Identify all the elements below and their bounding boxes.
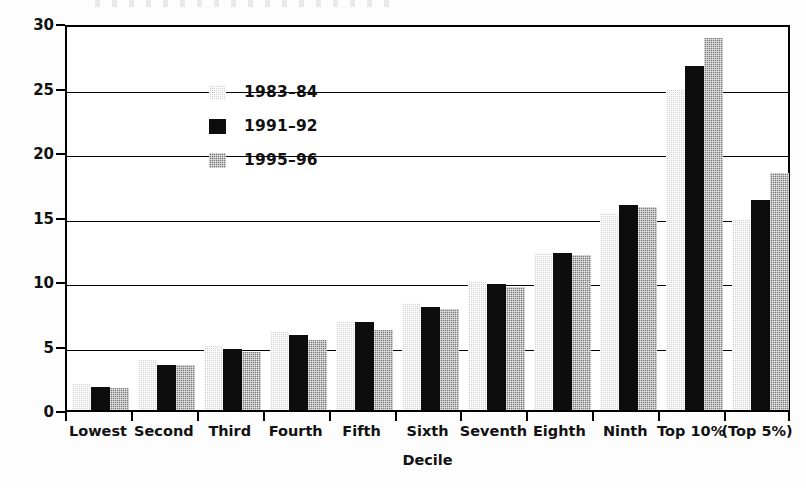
bar — [506, 287, 525, 410]
legend-item: 1995–96 — [209, 143, 389, 177]
y-tick-mark — [56, 218, 65, 220]
y-tick-label: 20 — [33, 145, 54, 163]
y-tick-mark — [56, 89, 65, 91]
bar — [534, 253, 553, 410]
bar — [374, 330, 393, 410]
bar-group — [732, 27, 789, 410]
clipped-title-remnant — [95, 0, 395, 7]
x-tick-label: (Top 5%) — [721, 423, 792, 439]
bar — [600, 213, 619, 410]
x-axis-tick-marks — [65, 412, 790, 421]
bar — [355, 322, 374, 410]
bar — [704, 38, 723, 410]
bar — [572, 255, 591, 410]
y-tick-label: 25 — [33, 81, 54, 99]
x-axis-tick-labels: LowestSecondThirdFourthFifthSixthSeventh… — [65, 423, 790, 445]
bar — [685, 66, 704, 410]
y-tick-mark — [56, 282, 65, 284]
x-tick-mark — [197, 412, 199, 421]
bar — [336, 321, 355, 410]
legend-label-1995-96: 1995–96 — [244, 151, 318, 169]
bar — [421, 307, 440, 410]
y-tick-label: 0 — [44, 403, 54, 421]
y-tick-label: 5 — [44, 339, 54, 357]
x-tick-label: Ninth — [603, 423, 648, 439]
bar — [242, 352, 261, 410]
bar-group — [402, 27, 459, 410]
legend-swatch-1991-92-icon — [209, 119, 226, 134]
x-tick-label: Eighth — [533, 423, 586, 439]
bar — [223, 349, 242, 410]
bar-group — [534, 27, 591, 410]
x-tick-mark — [592, 412, 594, 421]
bar-group — [72, 27, 129, 410]
x-tick-mark — [724, 412, 726, 421]
legend: 1983–84 1991–92 1995–96 — [209, 75, 389, 177]
bar — [638, 207, 657, 410]
bar — [770, 173, 789, 410]
y-axis-tick-marks — [56, 25, 65, 412]
y-tick-label: 30 — [33, 16, 54, 34]
x-tick-mark — [131, 412, 133, 421]
bar-group — [138, 27, 195, 410]
bar — [72, 384, 91, 410]
bar-group — [600, 27, 657, 410]
bar — [619, 205, 638, 410]
bar — [751, 200, 770, 410]
y-tick-mark — [56, 153, 65, 155]
plot-area: 1983–84 1991–92 1995–96 — [65, 25, 790, 412]
x-tick-label: Fifth — [342, 423, 380, 439]
bar-group — [468, 27, 525, 410]
legend-swatch-1983-84-icon — [209, 85, 226, 100]
bar — [138, 360, 157, 410]
bar — [176, 365, 195, 410]
bar — [487, 284, 506, 410]
bar — [468, 281, 487, 410]
bar — [270, 331, 289, 410]
y-tick-label: 15 — [33, 210, 54, 228]
y-tick-mark — [56, 411, 65, 413]
x-tick-mark — [65, 412, 67, 421]
bar-group — [666, 27, 723, 410]
x-tick-label: Sixth — [406, 423, 448, 439]
bar — [440, 309, 459, 410]
legend-label-1991-92: 1991–92 — [244, 117, 318, 135]
x-tick-label: Second — [134, 423, 194, 439]
x-tick-mark — [329, 412, 331, 421]
x-axis-title: Decile — [65, 452, 790, 468]
bar — [289, 335, 308, 410]
x-tick-mark — [395, 412, 397, 421]
x-tick-mark — [788, 412, 790, 421]
bar — [402, 303, 421, 410]
x-tick-label: Third — [208, 423, 251, 439]
bar — [157, 365, 176, 410]
y-tick-mark — [56, 24, 65, 26]
bar — [91, 387, 110, 410]
y-tick-label: 10 — [33, 274, 54, 292]
x-tick-mark — [263, 412, 265, 421]
legend-item: 1991–92 — [209, 109, 389, 143]
bar — [666, 90, 685, 410]
bar — [553, 253, 572, 410]
bar — [204, 346, 223, 411]
bar — [732, 219, 751, 410]
x-tick-mark — [460, 412, 462, 421]
x-tick-label: Fourth — [269, 423, 323, 439]
y-axis-tick-labels: 051015202530 — [0, 25, 58, 412]
x-tick-label: Lowest — [69, 423, 127, 439]
x-tick-label: Seventh — [460, 423, 527, 439]
bars-layer — [67, 27, 788, 410]
y-tick-mark — [56, 347, 65, 349]
legend-swatch-1995-96-icon — [209, 153, 226, 168]
x-tick-mark — [526, 412, 528, 421]
bar-chart-figure: 051015202530 Share (percent) 1983–84 199… — [0, 0, 806, 488]
bar — [110, 388, 129, 410]
x-tick-mark — [658, 412, 660, 421]
x-tick-label: Top 10% — [657, 423, 725, 439]
legend-label-1983-84: 1983–84 — [244, 83, 318, 101]
legend-item: 1983–84 — [209, 75, 389, 109]
bar — [308, 340, 327, 410]
